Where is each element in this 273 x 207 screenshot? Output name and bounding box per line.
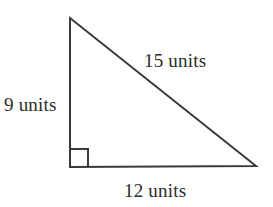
label-horizontal-leg: 12 units <box>124 181 186 200</box>
triangle-outline <box>70 18 256 167</box>
label-hypotenuse: 15 units <box>144 51 206 70</box>
label-vertical-leg: 9 units <box>4 95 57 114</box>
right-triangle-figure: 9 units 15 units 12 units <box>0 0 273 207</box>
